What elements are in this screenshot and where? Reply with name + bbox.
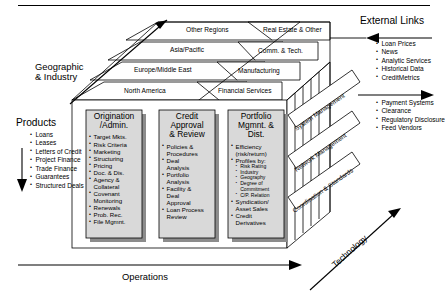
panel-portfolio: Portfolio Mgmnt. & Dist. Efficiency(risk… xyxy=(230,112,282,226)
slab-label-ind-1: Real Estate & Other xyxy=(263,26,322,33)
panel-item: (risk/return) xyxy=(231,150,282,157)
external-links-title: External Links xyxy=(360,16,424,27)
outbound-link-item: Regulatory Disclosure xyxy=(376,116,445,124)
outbound-link-item: Clearance xyxy=(376,107,445,115)
panel-item: Collateral xyxy=(89,183,140,190)
panel-2-items: Policies &ProceduresDealAnalysisPortfoli… xyxy=(162,143,213,220)
panel-item: Covenant xyxy=(89,190,140,197)
panel-origination: Origination /Admin. Target Mkts.Risk Cri… xyxy=(88,112,140,225)
slab-label-ind-4: Financial Services xyxy=(218,87,272,94)
outbound-link-item: Payment Systems xyxy=(376,99,445,107)
panel-1-title: Origination /Admin. xyxy=(88,112,140,130)
panel-item: Renewals xyxy=(89,204,140,211)
outbound-links-list: Payment SystemsClearanceRegulatory Discl… xyxy=(376,99,445,133)
external-link-item: Loan Prices xyxy=(376,40,431,48)
panel-item: Syndication/ xyxy=(231,198,282,205)
panel-item: Prob. Rec. xyxy=(89,211,140,218)
panel-item: Risk Criteria xyxy=(89,141,140,148)
panel-item: File Mgmnt. xyxy=(89,218,140,225)
product-item: Loans xyxy=(30,131,84,139)
panel-item: Marketing xyxy=(89,148,140,155)
panel-item: Policies & xyxy=(162,143,213,150)
panel-item: Credit xyxy=(231,212,282,219)
panel-item: Deal xyxy=(162,192,213,199)
panel-item: Pricing xyxy=(89,162,140,169)
panel-item: Target Mkts. xyxy=(89,133,140,140)
panel-item: Efficiency xyxy=(231,143,282,150)
panel-item: Approval xyxy=(162,199,213,206)
panel-item: Deal xyxy=(162,157,213,164)
external-link-item: CreditMetrics xyxy=(376,74,431,82)
slab-label-geo-1: Other Regions xyxy=(186,26,229,33)
panel-1-items: Target Mkts.Risk CriteriaMarketingStruct… xyxy=(89,133,140,224)
panel-3-title: Portfolio Mgmnt. & Dist. xyxy=(230,112,282,140)
external-link-item: News xyxy=(376,48,431,56)
panel-item: Analysis xyxy=(162,164,213,171)
panel-credit-approval: Credit Approval & Review Policies &Proce… xyxy=(161,112,213,220)
panel-2-title: Credit Approval & Review xyxy=(161,112,213,140)
slab-label-geo-3: Europe/Middle East xyxy=(134,66,192,73)
external-link-item: Analytic Services xyxy=(376,57,431,65)
outbound-link-item: Feed Vendors xyxy=(376,124,445,132)
panel-item: Asset Sales xyxy=(231,205,282,212)
products-list: LoansLeasesLetters of CreditProject Fina… xyxy=(30,131,84,190)
slab-label-ind-3: Manufacturing xyxy=(238,67,280,74)
panel-item: Doc. & Dis. xyxy=(89,169,140,176)
product-item: Project Finance xyxy=(30,156,84,164)
product-item: Guarantees xyxy=(30,173,84,181)
slab-label-geo-4: North America xyxy=(124,87,166,94)
panel-3-items: Efficiency(risk/return)Profiles by:Risk … xyxy=(231,143,282,227)
panel-item: Review xyxy=(162,213,213,220)
product-item: Leases xyxy=(30,139,84,147)
slab-label-ind-2: Comm. & Tech. xyxy=(258,47,303,54)
panel-item: Agency & xyxy=(89,176,140,183)
product-item: Letters of Credit xyxy=(30,148,84,156)
external-links-list: Loan PricesNewsAnalytic ServicesHistoric… xyxy=(376,40,431,82)
panel-item: Monitoring xyxy=(89,197,140,204)
panel-item: Derivatives xyxy=(231,219,282,226)
panel-item: Procedures xyxy=(162,150,213,157)
axis-label-operations: Operations xyxy=(122,272,168,282)
product-item: Structured Deals xyxy=(30,182,84,190)
axis-label-geographic: Geographic & Industry xyxy=(35,62,83,82)
products-title: Products xyxy=(16,118,56,129)
panel-item: Structuring xyxy=(89,155,140,162)
external-link-item: Historical Data xyxy=(376,65,431,73)
diagram-canvas: Geographic & Industry Other Regions Asia… xyxy=(0,0,445,298)
product-item: Trade Finance xyxy=(30,165,84,173)
panel-item: Analysis xyxy=(162,178,213,185)
panel-item: Loan Process xyxy=(162,206,213,213)
slab-label-geo-2: Asia/Pacific xyxy=(170,46,204,53)
panel-item: Portfolio xyxy=(162,171,213,178)
panel-item: Facility & xyxy=(162,185,213,192)
